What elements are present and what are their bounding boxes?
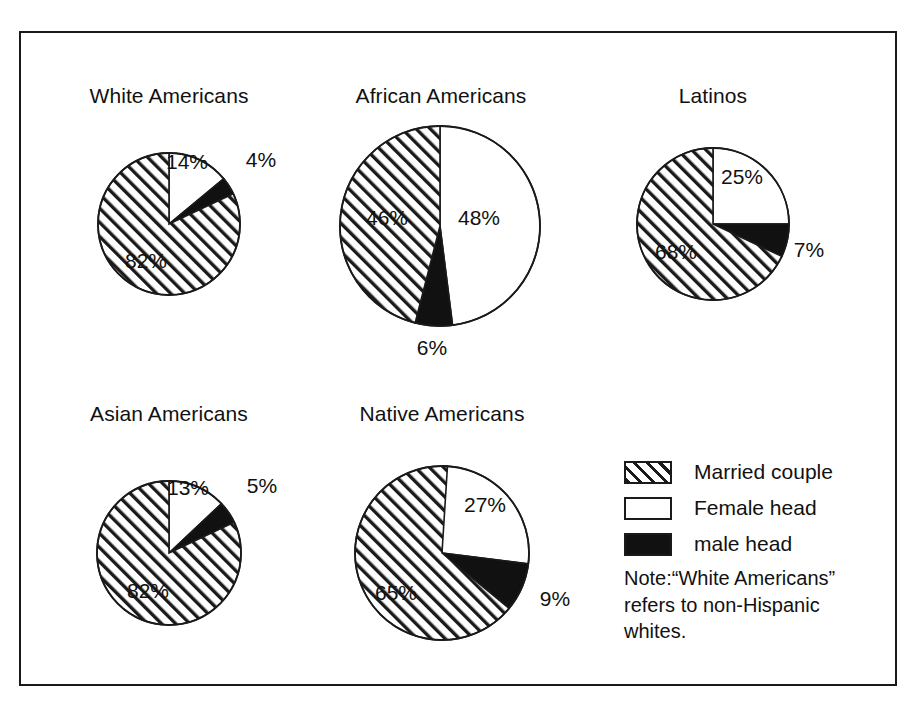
slice-percentage-label: 14%: [166, 150, 208, 174]
legend-item-female-head[interactable]: Female head: [624, 490, 833, 526]
legend-label-married-couple: Married couple: [694, 460, 833, 484]
slice-percentage-label: 46%: [366, 206, 408, 230]
slice-percentage-label: 13%: [167, 476, 209, 500]
figure-frame: White Americans African Americans Latino…: [19, 31, 897, 686]
slice-percentage-label: 27%: [464, 493, 506, 517]
slice-percentage-label: 4%: [246, 148, 276, 172]
slice-percentage-label: 5%: [247, 474, 277, 498]
legend: Married couple Female head male head: [624, 454, 833, 562]
slice-percentage-label: 6%: [417, 336, 447, 360]
slice-percentage-label: 9%: [540, 587, 570, 611]
slice-percentage-label: 82%: [127, 579, 169, 603]
slice-percentage-label: 82%: [125, 249, 167, 273]
legend-swatch-white-icon: [624, 497, 672, 520]
slice-percentage-label: 7%: [794, 238, 824, 262]
legend-swatch-hatch-icon: [624, 461, 672, 484]
legend-item-married-couple[interactable]: Married couple: [624, 454, 833, 490]
figure-note: Note:“White Americans” refers to non-His…: [624, 565, 884, 645]
slice-percentage-label: 25%: [721, 165, 763, 189]
slice-percentage-label: 65%: [375, 581, 417, 605]
legend-label-male-head: male head: [694, 532, 792, 556]
legend-item-male-head[interactable]: male head: [624, 526, 833, 562]
slice-percentage-label: 48%: [458, 206, 500, 230]
legend-label-female-head: Female head: [694, 496, 817, 520]
legend-swatch-black-icon: [624, 533, 672, 556]
slice-percentage-label: 68%: [655, 240, 697, 264]
